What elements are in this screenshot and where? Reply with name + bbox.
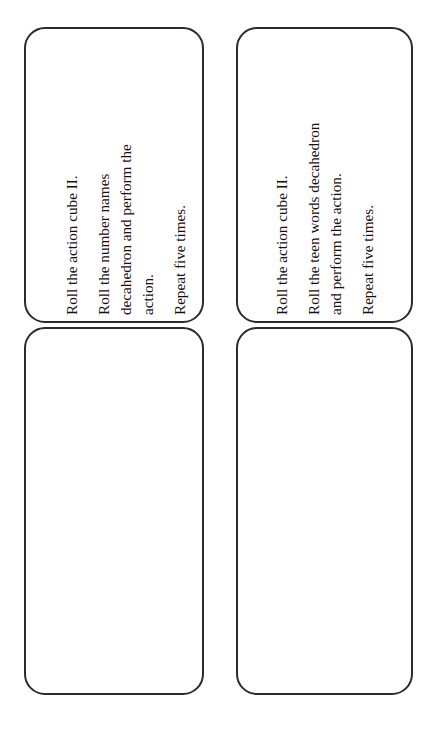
page-root: Roll the action cube II. Roll the number… [0,0,435,730]
instruction-line: Roll the action cube II. [274,61,296,315]
instruction-line: action. [140,61,162,315]
instruction-text-block: Roll the action cube II. Roll the number… [64,61,194,315]
instruction-line: and perform the action. [328,61,350,315]
instruction-line: Repeat five times. [172,61,194,315]
vertical-text-wrapper: Roll the action cube II. Roll the number… [26,29,202,321]
vertical-text-wrapper: Roll the action cube II. Roll the teen w… [238,29,411,321]
instruction-card-number-names[interactable]: Roll the action cube II. Roll the number… [24,27,204,323]
instruction-line: Roll the action cube II. [64,61,86,315]
counter-card-four[interactable] [236,327,413,695]
instruction-text-block: Roll the action cube II. Roll the teen w… [274,61,382,315]
instruction-card-teen-words[interactable]: Roll the action cube II. Roll the teen w… [236,27,413,323]
instruction-line: decahedron and perform the [118,61,140,315]
counter-card-three[interactable] [24,327,204,695]
instruction-line: Roll the teen words decahedron [306,61,328,315]
instruction-line: Repeat five times. [360,61,382,315]
instruction-line: Roll the number names [96,61,118,315]
